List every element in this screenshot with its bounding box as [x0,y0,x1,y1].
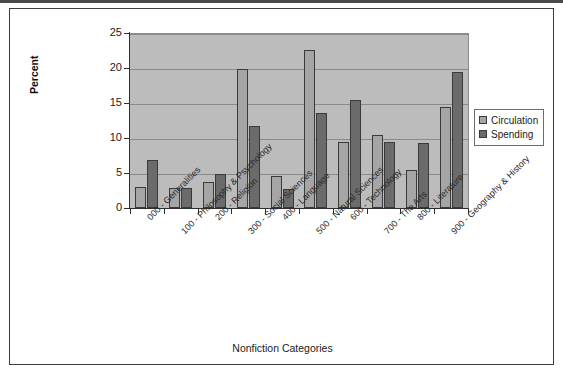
legend-label: Spending [491,129,533,140]
legend-item-circ: Circulation [479,113,538,127]
bar-spend-5 [316,113,327,208]
y-axis-title: Percent [28,55,40,94]
y-axis-tick [124,208,129,209]
y-axis-labels: 0510152025 [10,9,122,373]
legend-item-spend: Spending [479,127,538,141]
y-axis-tick [124,138,129,139]
x-axis-tick [130,209,131,214]
y-axis-tick [124,103,129,104]
y-axis-tick-label: 0 [22,202,122,213]
legend-swatch-circ [479,116,487,124]
y-axis-tick-label: 10 [22,132,122,143]
legend-swatch-spend [479,130,487,138]
y-axis-tick [124,173,129,174]
chart-legend: CirculationSpending [474,109,544,146]
x-axis-title: Nonfiction Categories [10,342,555,354]
y-axis-tick-label: 5 [22,167,122,178]
y-axis-tick-label: 15 [22,97,122,108]
y-axis-tick [124,33,129,34]
bar-circ-0 [135,187,146,208]
y-axis-tick-label: 25 [22,27,122,38]
chart-frame: 0510152025 000 - Generalities100 - Philo… [9,8,554,365]
y-axis-tick [124,68,129,69]
bar-spend-0 [147,160,158,208]
legend-label: Circulation [491,115,538,126]
page-top-rule [0,0,563,3]
